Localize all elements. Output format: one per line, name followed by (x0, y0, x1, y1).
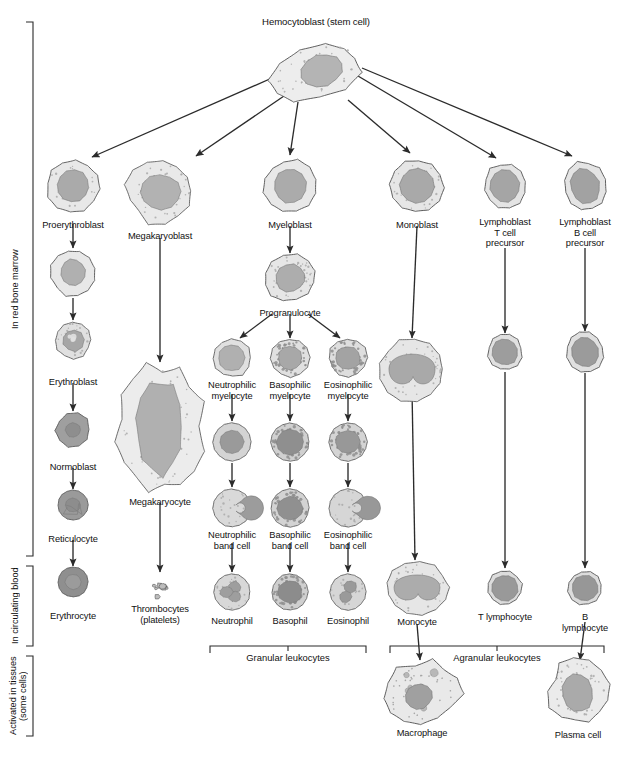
cell-label-t-lymphocyte: T lymphocyte (478, 612, 532, 623)
cell-label-eosinophilic-band: Eosinophilic band cell (324, 530, 372, 551)
cell-reticulocyte (58, 490, 88, 520)
cell-myeloblast (258, 156, 322, 217)
cell-label-myeloblast: Myeloblast (268, 220, 311, 231)
cell-label-eosinophil: Eosinophil (327, 616, 369, 627)
cell-erythroblast (55, 322, 90, 359)
cell-label-basophil: Basophil (273, 616, 308, 627)
arrow-hemocytoblast-to-monoblast (348, 100, 410, 153)
cell-eosinophil-mid (329, 423, 368, 461)
cell-label-thrombocytes: Thrombocytes (platelets) (131, 604, 189, 625)
cell-eosinophilic-band (329, 489, 381, 527)
cell-basophil-mid (271, 423, 309, 461)
arrow-monocyte-to-macrophage (417, 624, 420, 660)
stage-label-marrow: In red bone marrow (8, 209, 22, 369)
cell-neutrophilic-myelocyte (213, 339, 250, 376)
stage-label-tissues: Activated in tissues (some cells) (6, 616, 30, 759)
cell-normoblast (55, 413, 89, 448)
cell-label-neutrophilic-band: Neutrophilic band cell (208, 530, 256, 551)
cell-thrombocytes (152, 583, 168, 599)
cell-label-neutrophil: Neutrophil (211, 616, 252, 627)
cell-monoblast (381, 150, 451, 221)
cell-label-plasma-cell: Plasma cell (555, 730, 601, 741)
cell-label-macrophage: Macrophage (397, 728, 448, 739)
cell-b-lymphocyte (565, 569, 604, 607)
cell-eosinophil (330, 574, 366, 611)
cell-label-megakaryoblast: Megakaryoblast (128, 231, 192, 242)
cell-eosinophilic-myelocyte (329, 339, 367, 377)
arrow-hemocytoblast-to-lymphoblast-t (358, 76, 496, 158)
cell-proerythroblast (44, 156, 103, 215)
group-bracket-label-granular: Granular leukocytes (246, 652, 329, 663)
cell-label-hemocytoblast: Hemocytoblast (stem cell) (262, 17, 370, 28)
cell-monoblast-mid (379, 339, 442, 402)
cell-label-lymphoblast-t: Lymphoblast T cell precursor (479, 217, 530, 249)
cell-megakaryoblast (124, 161, 190, 225)
cell-label-lymphoblast-b: Lymphoblast B cell precursor (559, 217, 610, 249)
arrow-hemocytoblast-to-myeloblast (290, 102, 298, 155)
cell-megakaryocyte (115, 362, 205, 492)
cell-label-megakaryocyte: Megakaryocyte (129, 497, 191, 508)
arrow-hemocytoblast-to-lymphoblast-b (362, 68, 572, 156)
arrow-monoblast-mid-to-monocyte (412, 390, 415, 560)
cell-basophil (272, 574, 308, 610)
arrow-hemocytoblast-to-proerythroblast (92, 78, 272, 157)
cell-neutrophilic-band (213, 489, 264, 527)
cell-label-b-lymphocyte: B lymphocyte (562, 612, 608, 633)
arrow-monoblast-to-monoblast-mid (412, 226, 417, 338)
cell-progranulocyte (260, 249, 321, 306)
nucleus (394, 575, 440, 600)
cell-monocyte (387, 561, 450, 615)
cytoplasm (329, 489, 367, 527)
nucleus (336, 347, 360, 369)
cell-label-erythroblast: Erythroblast (49, 377, 97, 388)
cell-label-normoblast: Normoblast (50, 462, 97, 473)
cell-t-lymphocyte (484, 567, 526, 607)
cell-basophilic-myelocyte (270, 340, 310, 378)
cell-erythrocyte (58, 567, 88, 597)
cell-erythroblast-early (47, 247, 99, 300)
hematopoiesis-diagram: Hemocytoblast (stem cell)Proerythroblast… (0, 0, 625, 759)
cell-b-lymphocyte-mid (561, 328, 607, 377)
cell-label-eosinophilic-myelocyte: Eosinophilic myelocyte (324, 380, 372, 401)
cell-lymphoblast-b (558, 155, 612, 214)
group-bracket-label-agranular: Agranular leukocytes (453, 652, 541, 663)
cell-neutrophil-mid (213, 423, 251, 462)
cell-label-erythrocyte: Erythrocyte (50, 611, 96, 622)
cell-label-monocyte: Monocyte (397, 617, 437, 628)
cell-t-lymphocyte-mid (484, 331, 525, 373)
cell-neutrophil (214, 574, 250, 610)
cell-label-basophilic-band: Basophilic band cell (269, 530, 310, 551)
cell-label-proerythroblast: Proerythroblast (42, 220, 104, 231)
cell-label-progranulocyte: Progranulocyte (259, 308, 320, 319)
cell-plasma-cell (540, 651, 617, 729)
stage-bracket-marrow (26, 22, 33, 556)
cell-lymphoblast-t (481, 162, 530, 212)
cell-basophilic-band (271, 489, 309, 528)
cell-label-basophilic-myelocyte: Basophilic myelocyte (269, 380, 310, 401)
cell-label-monoblast: Monoblast (396, 220, 438, 231)
nucleus (389, 354, 435, 384)
cell-label-reticulocyte: Reticulocyte (48, 534, 97, 545)
cell-label-neutrophilic-myelocyte: Neutrophilic myelocyte (208, 380, 256, 401)
